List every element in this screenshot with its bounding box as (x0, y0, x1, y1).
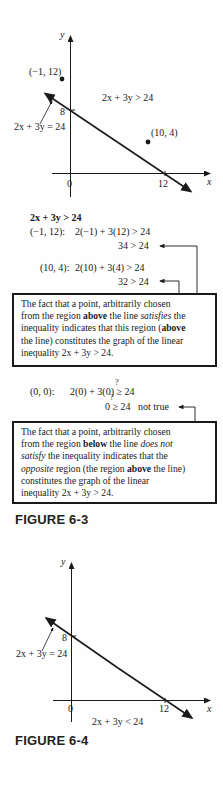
y-intercept-label-2: 8 (62, 632, 67, 643)
x-axis-label-2: x (207, 703, 211, 714)
graph2-lines (0, 0, 223, 804)
region-label-2: 2x + 3y < 24 (92, 716, 143, 727)
x-intercept-label-2: 12 (159, 703, 169, 714)
figure-6-4-caption: FIGURE 6-4 (15, 733, 89, 748)
y-axis-label-2: y (61, 556, 65, 567)
origin-label-2: 0 (68, 703, 73, 714)
line-label-2: 2x + 3y = 24 (16, 648, 67, 659)
